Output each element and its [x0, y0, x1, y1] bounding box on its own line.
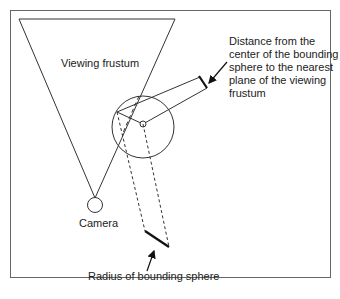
label-radius: Radius of bounding sphere: [88, 270, 219, 282]
radius-arrow-icon: [147, 251, 154, 271]
distance-marker: [199, 76, 207, 88]
distance-band-start: [117, 112, 143, 124]
label-distance-line-5: frustum: [229, 87, 266, 99]
label-distance-line-3: sphere to the nearest: [229, 61, 333, 73]
bounding-sphere-culling-diagram: Viewing frustum Camera Distance from the…: [0, 0, 340, 299]
label-camera: Camera: [79, 217, 119, 229]
label-distance-line-2: center of the bounding: [229, 48, 338, 60]
camera-icon: [88, 198, 103, 213]
radius-dashed-right: [143, 124, 169, 247]
radius-marker: [145, 231, 169, 247]
distance-band-top: [117, 77, 200, 112]
label-distance-line-4: plane of the viewing: [229, 74, 326, 86]
label-viewing-frustum: Viewing frustum: [61, 57, 139, 69]
distance-arrow-icon: [209, 62, 227, 83]
distance-band-bottom: [143, 88, 207, 124]
viewing-frustum: [19, 19, 175, 198]
label-distance-line-1: Distance from the: [229, 35, 315, 47]
radius-dashed-left: [117, 112, 145, 231]
